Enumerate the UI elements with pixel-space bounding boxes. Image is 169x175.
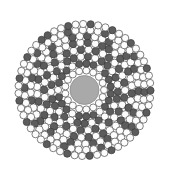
dark-circle	[105, 76, 112, 83]
light-circle	[27, 125, 34, 132]
dark-circle	[107, 83, 114, 90]
light-circle	[145, 72, 152, 79]
dark-circle	[109, 27, 116, 34]
dark-circle	[86, 152, 93, 159]
light-circle	[78, 152, 85, 159]
dark-circle	[55, 93, 62, 100]
dark-circle	[63, 50, 71, 58]
light-circle	[85, 46, 93, 54]
light-circle	[122, 34, 129, 41]
dark-circle	[43, 141, 50, 148]
dark-circle	[127, 39, 134, 46]
light-circle	[132, 45, 139, 52]
light-circle	[50, 145, 57, 152]
dark-circle	[65, 22, 72, 29]
dark-circle	[90, 61, 97, 68]
light-circle	[121, 139, 128, 146]
dark-circle	[75, 112, 82, 119]
dark-circle	[113, 95, 120, 102]
light-circle	[17, 104, 24, 111]
light-circle	[84, 127, 92, 135]
dark-circle	[38, 36, 45, 43]
light-circle	[90, 104, 97, 111]
light-circle	[114, 81, 121, 88]
light-circle	[18, 67, 25, 74]
dark-circle	[84, 53, 91, 60]
light-circle	[33, 41, 40, 48]
light-circle	[101, 149, 108, 156]
figure-root	[0, 0, 169, 175]
dark-circle	[143, 109, 150, 116]
light-circle	[33, 90, 41, 98]
light-circle	[145, 102, 152, 109]
dark-circle	[77, 127, 85, 135]
light-circle	[51, 28, 58, 35]
light-circle	[71, 152, 78, 159]
light-circle	[147, 79, 154, 86]
light-circle	[127, 134, 134, 141]
light-circle	[57, 25, 64, 32]
light-circle	[76, 68, 83, 75]
dark-circle	[16, 97, 23, 104]
light-circle	[57, 31, 64, 38]
dark-circle	[108, 147, 115, 154]
light-circle	[15, 90, 22, 97]
light-circle	[37, 136, 44, 143]
dark-circle	[114, 88, 121, 95]
dark-circle	[107, 90, 114, 97]
dark-circle	[92, 47, 100, 55]
dark-circle	[58, 100, 65, 107]
light-circle	[70, 47, 78, 55]
dark-circle	[55, 79, 62, 86]
light-circle	[62, 90, 69, 97]
mandala-diagram	[0, 0, 169, 175]
dark-circle	[132, 129, 139, 136]
light-circle	[56, 148, 63, 155]
dark-circle	[64, 150, 71, 157]
light-circle	[121, 86, 129, 94]
light-circle	[115, 143, 122, 150]
light-circle	[140, 58, 147, 65]
light-circle	[28, 47, 35, 54]
dark-circle	[44, 32, 51, 39]
light-circle	[54, 86, 61, 93]
dark-circle	[24, 53, 31, 60]
dark-circle	[70, 55, 77, 62]
light-circle	[72, 21, 79, 28]
light-circle	[20, 112, 27, 119]
light-circle	[98, 123, 106, 131]
light-circle	[32, 131, 39, 138]
dark-circle	[83, 60, 90, 67]
light-circle	[95, 22, 102, 29]
light-circle	[115, 30, 122, 37]
light-circle	[20, 60, 27, 67]
light-circle	[69, 71, 76, 78]
dark-circle	[40, 86, 48, 94]
dark-circle	[83, 113, 90, 120]
dark-circle	[76, 60, 83, 67]
light-circle	[69, 125, 77, 133]
light-circle	[137, 51, 144, 58]
dark-circle	[143, 65, 150, 72]
light-circle	[80, 20, 87, 27]
light-circle	[140, 116, 147, 123]
light-circle	[83, 106, 90, 113]
dark-circle	[87, 21, 94, 28]
light-circle	[146, 94, 153, 101]
light-circle	[136, 123, 143, 130]
dark-circle	[23, 118, 30, 125]
dark-circle	[92, 125, 100, 133]
dark-circle	[112, 74, 119, 81]
light-circle	[77, 53, 84, 60]
light-circle	[101, 87, 108, 94]
center-disk	[70, 76, 99, 105]
light-circle	[62, 83, 69, 90]
light-circle	[102, 24, 109, 31]
dark-circle	[77, 46, 85, 54]
light-circle	[83, 67, 90, 74]
dark-circle	[81, 120, 88, 127]
light-circle	[15, 82, 22, 89]
dark-circle	[147, 87, 154, 94]
light-circle	[47, 88, 54, 95]
light-circle	[76, 105, 83, 112]
